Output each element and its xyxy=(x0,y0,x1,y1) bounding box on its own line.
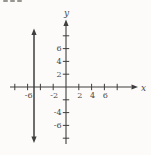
y-axis-arrowhead xyxy=(63,20,68,27)
x-tick-label: 6 xyxy=(103,91,108,100)
plotted-line-top-arrowhead xyxy=(31,29,36,36)
y-tick-label: 4 xyxy=(56,57,61,66)
x-tick-label: 2 xyxy=(77,91,82,100)
y-tick-label: 2 xyxy=(56,70,61,79)
y-axis-letter-label: y xyxy=(63,8,70,18)
x-tick-label: 4 xyxy=(90,91,95,100)
coordinate-plane: x-6-2246y642-4-6 xyxy=(0,0,151,155)
plotted-line-bottom-arrowhead xyxy=(31,136,36,143)
x-tick-label: -2 xyxy=(50,91,58,100)
x-axis-arrowhead xyxy=(132,84,139,89)
scanned-textbook-figure: x-6-2246y642-4-6 xyxy=(0,0,151,155)
y-tick-label: 6 xyxy=(56,44,61,53)
x-tick-label: -6 xyxy=(25,91,33,100)
y-tick-label: -4 xyxy=(54,108,62,117)
y-tick-label: -6 xyxy=(54,121,62,130)
x-axis-letter-label: x xyxy=(141,83,146,93)
